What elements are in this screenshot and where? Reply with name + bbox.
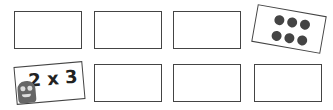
card-r1-c4-dots[interactable] <box>251 4 327 54</box>
dot-icon <box>271 30 283 42</box>
dot-icon <box>284 32 296 44</box>
card-r2-c1-expression[interactable]: 2 x 3 <box>13 61 85 105</box>
monster-icon <box>17 80 37 103</box>
card-r1-c3[interactable] <box>173 11 241 49</box>
dot-icon <box>297 34 309 46</box>
dot-icon <box>299 19 311 31</box>
card-r2-c3[interactable] <box>173 64 241 102</box>
card-r1-c2[interactable] <box>94 11 162 49</box>
card-r2-c2[interactable] <box>94 64 162 102</box>
dots-group <box>270 14 314 49</box>
dot-icon <box>274 14 286 26</box>
dot-icon <box>286 17 298 29</box>
card-r1-c1[interactable] <box>14 11 82 49</box>
card-r2-c4[interactable] <box>254 64 322 102</box>
